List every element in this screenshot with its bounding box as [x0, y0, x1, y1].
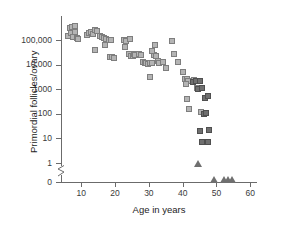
data-point	[197, 128, 203, 134]
x-tick-label-50: 50	[204, 189, 228, 198]
data-point	[210, 176, 218, 183]
x-tick-label-60: 60	[238, 189, 262, 198]
data-point	[138, 52, 144, 58]
data-point	[160, 59, 166, 65]
x-tick-label-10: 10	[69, 189, 93, 198]
x-tick-60	[250, 183, 251, 187]
y-axis-line	[61, 16, 62, 166]
data-point	[72, 23, 78, 29]
x-tick-50	[216, 183, 217, 187]
y-tick-label-10: 10	[43, 134, 52, 143]
x-tick-10	[81, 183, 82, 187]
data-point	[163, 65, 169, 71]
scatter-chart-figure: 100,00010,00010001001010 102030405060 Pr…	[0, 0, 286, 233]
data-point	[175, 59, 181, 65]
y-tick-100000	[56, 40, 61, 41]
data-point	[206, 127, 212, 133]
y-tick-100	[56, 114, 61, 115]
y-tick-1	[56, 163, 61, 164]
data-point	[75, 36, 81, 42]
y-tick-label-100: 100	[38, 109, 52, 118]
x-tick-30	[149, 183, 150, 187]
data-point	[183, 81, 189, 87]
x-tick-label-30: 30	[137, 189, 161, 198]
data-point	[171, 51, 177, 57]
y-tick-label-0: 0	[47, 178, 52, 187]
data-point	[205, 139, 211, 145]
x-axis-title: Age in years	[61, 205, 257, 215]
data-point	[184, 96, 190, 102]
y-tick-10000	[56, 65, 61, 66]
data-point	[203, 110, 209, 116]
data-point	[228, 176, 236, 183]
data-point	[92, 47, 98, 53]
y-tick-1000	[56, 89, 61, 90]
axis-break-icon	[55, 165, 68, 177]
data-point	[152, 42, 158, 48]
data-point	[199, 139, 205, 145]
data-point	[180, 69, 186, 75]
y-tick-label-1: 1	[47, 159, 52, 168]
y-axis-title: Primordial follicles/ovary	[29, 22, 39, 182]
x-tick-label-40: 40	[171, 189, 195, 198]
data-point	[108, 37, 114, 43]
data-point	[147, 74, 153, 80]
data-point	[122, 44, 128, 50]
data-point	[199, 85, 205, 91]
data-point	[194, 160, 202, 167]
data-point	[111, 55, 117, 61]
y-tick-10	[56, 138, 61, 139]
x-tick-20	[115, 183, 116, 187]
data-point	[186, 106, 192, 112]
y-tick-0	[56, 182, 61, 183]
x-tick-40	[183, 183, 184, 187]
data-point	[197, 78, 203, 84]
x-tick-label-20: 20	[103, 189, 127, 198]
data-point	[169, 38, 175, 44]
data-point	[205, 93, 211, 99]
data-point	[127, 36, 133, 42]
